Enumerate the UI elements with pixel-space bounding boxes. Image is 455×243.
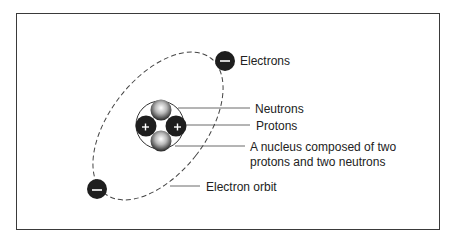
label-nucleus-line1: A nucleus composed of two [250, 140, 396, 154]
label-neutrons: Neutrons [255, 102, 304, 116]
electron-bottom [87, 179, 107, 199]
label-electrons: Electrons [240, 54, 290, 68]
label-electron-orbit: Electron orbit [206, 180, 277, 194]
proton-right [166, 116, 187, 137]
atom-diagram [0, 0, 455, 243]
label-protons: Protons [256, 119, 297, 133]
electron-top [215, 51, 235, 71]
neutron-top [151, 100, 172, 121]
label-nucleus-line2: protons and two neutrons [250, 155, 385, 169]
neutron-bottom [151, 131, 172, 152]
